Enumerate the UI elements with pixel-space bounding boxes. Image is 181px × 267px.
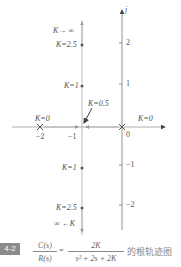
label-k-inf-bottom: ∞ ←K bbox=[54, 220, 75, 228]
caption-rhs-num: 2K bbox=[68, 242, 124, 250]
imag-tick-1: 1 bbox=[126, 80, 130, 88]
imag-tick-2: 2 bbox=[126, 39, 130, 47]
root-locus-plot bbox=[0, 0, 181, 267]
label-k0-left: K=0 bbox=[35, 115, 50, 123]
real-tick-neg2: −2 bbox=[36, 133, 45, 141]
label-k-2-5-bottom: K=2.5 bbox=[56, 204, 77, 212]
caption-suffix: 的根轨迹图 bbox=[127, 245, 172, 258]
imag-tick-neg1: −1 bbox=[126, 161, 135, 169]
label-k-inf-top: K→ ∞ bbox=[53, 27, 74, 35]
label-k-2-5-top: K=2.5 bbox=[56, 41, 77, 49]
real-tick-neg1: −1 bbox=[68, 133, 77, 141]
label-k0-right: K=0 bbox=[138, 115, 153, 123]
figure-tag: 4-2 bbox=[0, 243, 20, 255]
label-k-1-top: K=1 bbox=[64, 82, 79, 90]
label-k-0-5: K=0.5 bbox=[88, 100, 109, 108]
caption-lhs-den: R(s) bbox=[33, 255, 57, 263]
label-k-1-bottom: K=1 bbox=[62, 164, 77, 172]
caption-lhs-num: C(s) bbox=[33, 242, 57, 250]
breakaway-pointer bbox=[84, 108, 92, 123]
imag-axis-label: j bbox=[125, 6, 127, 14]
real-tick-0: 0 bbox=[126, 131, 130, 139]
imag-tick-neg2: −2 bbox=[126, 201, 135, 209]
caption-eq: = bbox=[59, 247, 64, 255]
caption-rhs-den: s² + 2s + 2K bbox=[66, 255, 126, 263]
